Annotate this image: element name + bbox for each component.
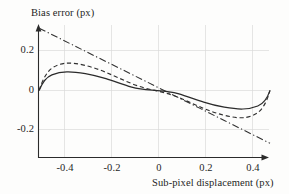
axis-arrowheads	[36, 24, 269, 161]
x-axis-arrow-icon	[262, 154, 270, 160]
y-tick-label-0.2: 0.2	[8, 45, 34, 56]
x-tick-label--0.4: -0.4	[51, 163, 79, 174]
y-axis-title: Bias error (px)	[31, 8, 94, 19]
x-tick-label-0.2: 0.2	[193, 163, 219, 174]
x-axis-title: Sub-pixel displacement (px)	[152, 178, 274, 189]
y-tick-label-0: 0	[8, 85, 34, 96]
y-tick-label--0.2: -0.2	[4, 124, 34, 135]
x-tick-label-0.4: 0.4	[240, 163, 266, 174]
x-tick-label-0: 0	[148, 163, 170, 174]
y-axis-arrow-icon	[36, 24, 42, 32]
series-dash-dot-linear	[39, 28, 270, 143]
chart-figure: Bias error (px) Sub-pixel displacement (…	[0, 0, 289, 194]
x-tick-label--0.2: -0.2	[98, 163, 126, 174]
axis-frame	[38, 27, 263, 158]
